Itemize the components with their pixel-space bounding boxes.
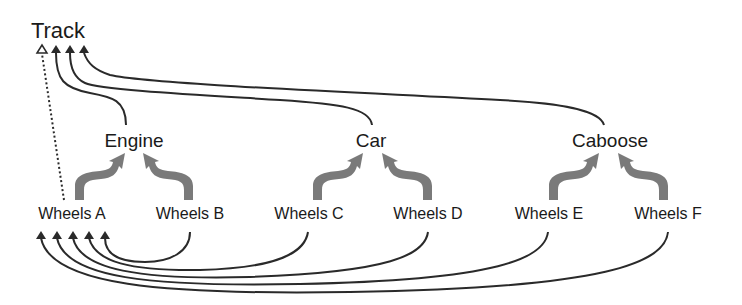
fat-arrow-wheels-f-caboose <box>618 153 668 200</box>
arrowhead-icon <box>52 231 62 239</box>
arrowhead-icon <box>51 45 61 53</box>
fat-arrow-wheels-b-engine <box>143 153 193 200</box>
arrowhead-icon <box>68 231 78 239</box>
edge-wheels-c-to-wheels-a <box>89 232 308 270</box>
edge-wheels-b-to-wheels-a <box>105 232 190 262</box>
diagram-canvas: Track Engine Car Caboose Wheels A Wheels… <box>0 0 742 305</box>
edge-caboose-to-track <box>84 53 604 125</box>
edge-car-to-track <box>70 53 372 125</box>
node-track: Track <box>31 18 85 44</box>
arrowhead-icon <box>79 45 89 53</box>
node-wheels-e: Wheels E <box>515 205 583 223</box>
edge-wheels-e-to-wheels-a <box>57 232 548 285</box>
node-car: Car <box>356 130 387 152</box>
node-wheels-d: Wheels D <box>393 205 462 223</box>
node-wheels-f: Wheels F <box>634 205 702 223</box>
arrowhead-icon <box>100 231 110 239</box>
composition-arrows <box>75 153 668 200</box>
fat-arrow-wheels-c-car <box>313 153 363 200</box>
node-engine: Engine <box>104 130 163 152</box>
arrowhead-icon <box>84 231 94 239</box>
fat-arrow-wheels-d-car <box>382 153 432 200</box>
wheels-a-arrowheads <box>36 231 110 239</box>
hollow-arrowhead-icon <box>37 45 47 53</box>
arrowhead-icon <box>36 231 46 239</box>
edge-wheels-d-to-wheels-a <box>73 232 428 278</box>
node-wheels-b: Wheels B <box>156 205 224 223</box>
fat-arrow-wheels-a-engine <box>75 153 125 200</box>
node-wheels-a: Wheels A <box>38 205 106 223</box>
node-caboose: Caboose <box>572 130 648 152</box>
edges-to-wheels-a <box>41 232 668 292</box>
track-arrowheads <box>37 45 89 53</box>
fat-arrow-wheels-e-caboose <box>549 153 599 200</box>
diagram-edges <box>0 0 742 305</box>
arrowhead-icon <box>65 45 75 53</box>
node-wheels-c: Wheels C <box>274 205 343 223</box>
